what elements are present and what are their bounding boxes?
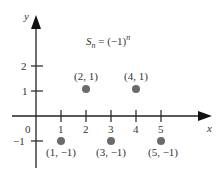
- svg-text:5: 5: [158, 123, 164, 135]
- point-2: [82, 85, 90, 93]
- point-4: [132, 85, 140, 93]
- x-ticks: 0 1 2 3 4 5: [25, 110, 164, 135]
- x-axis-label: x: [206, 122, 212, 134]
- x-axis-arrow-icon: [198, 111, 212, 121]
- svg-text:3: 3: [108, 123, 114, 135]
- y-axis-label: y: [23, 10, 29, 22]
- svg-text:0: 0: [25, 123, 31, 135]
- y-axis-arrow-icon: [31, 15, 41, 29]
- chart-title: Sn = (−1)n: [86, 33, 130, 50]
- svg-text:1: 1: [22, 85, 28, 97]
- point-5: [157, 137, 165, 145]
- svg-text:4: 4: [133, 123, 139, 135]
- point-3: [107, 137, 115, 145]
- sequence-plot: y x Sn = (−1)n 2 1 −1 0 1 2 3 4 5 (1, −1…: [0, 0, 224, 174]
- svg-text:2: 2: [21, 60, 27, 72]
- point-1: [57, 137, 65, 145]
- data-points: (1, −1) (2, 1) (3, −1) (4, 1) (5, −1): [46, 70, 178, 159]
- svg-text:2: 2: [83, 123, 89, 135]
- svg-text:−1: −1: [13, 135, 25, 147]
- svg-text:(4, 1): (4, 1): [124, 70, 148, 83]
- svg-text:1: 1: [58, 123, 64, 135]
- svg-text:(1, −1): (1, −1): [46, 146, 76, 159]
- svg-text:(3, −1): (3, −1): [96, 146, 126, 159]
- svg-text:(2, 1): (2, 1): [74, 70, 98, 83]
- svg-text:(5, −1): (5, −1): [148, 146, 178, 159]
